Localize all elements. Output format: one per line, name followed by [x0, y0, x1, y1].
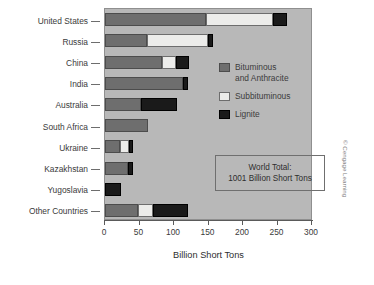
- x-tick: [208, 221, 209, 225]
- x-axis-label: Billion Short Tons: [104, 250, 313, 260]
- x-tick: [242, 221, 243, 225]
- category-label: India: [0, 79, 88, 89]
- world-total-line1: World Total:: [249, 162, 292, 173]
- category-tick: [91, 84, 100, 85]
- segment-lignite: [153, 204, 188, 217]
- x-tick-label: 250: [270, 227, 284, 237]
- bar-other-countries: [105, 204, 188, 217]
- category-label: United States: [0, 16, 88, 26]
- bar-russia: [105, 34, 213, 47]
- category-label: Yugoslavia: [0, 185, 88, 195]
- bituminous-swatch: [219, 63, 230, 72]
- category-tick: [91, 42, 100, 43]
- segment-bituminous: [105, 56, 162, 69]
- bar-yugoslavia: [105, 183, 121, 196]
- copyright-credit: © Cengage Learning: [342, 140, 349, 197]
- bar-china: [105, 56, 189, 69]
- segment-bituminous: [105, 140, 120, 153]
- legend-item-subbituminous: Subbituminous: [219, 91, 337, 102]
- category-label: Australia: [0, 100, 88, 110]
- category-label: China: [0, 58, 88, 68]
- segment-bituminous: [105, 98, 141, 111]
- x-tick: [104, 221, 105, 225]
- x-tick: [311, 221, 312, 225]
- category-label: Ukraine: [0, 143, 88, 153]
- category-axis: United StatesRussiaChinaIndiaAustraliaSo…: [0, 10, 88, 218]
- category-tick: [91, 127, 100, 128]
- segment-bituminous: [105, 162, 128, 175]
- category-label: South Africa: [0, 122, 88, 132]
- world-total-box: World Total: 1001 Billion Short Tons: [215, 155, 325, 191]
- x-tick-label: 50: [134, 227, 143, 237]
- segment-lignite: [176, 56, 189, 69]
- category-tick: [91, 211, 100, 212]
- category-label: Kazakhstan: [0, 164, 88, 174]
- x-tick-label: 200: [235, 227, 249, 237]
- legend-label-bituminous: Bituminous and Anthracite: [235, 62, 289, 83]
- legend-item-bituminous: Bituminous and Anthracite: [219, 62, 337, 83]
- segment-subbituminous: [120, 140, 129, 153]
- bar-ukraine: [105, 140, 133, 153]
- x-tick: [173, 221, 174, 225]
- category-label: Russia: [0, 37, 88, 47]
- segment-subbituminous: [138, 204, 152, 217]
- bar-india: [105, 77, 188, 90]
- category-tick: [91, 169, 100, 170]
- segment-bituminous: [105, 204, 138, 217]
- segment-subbituminous: [147, 34, 208, 47]
- segment-lignite: [129, 140, 133, 153]
- world-total-line2: 1001 Billion Short Tons: [228, 173, 312, 184]
- x-tick-label: 0: [102, 227, 107, 237]
- segment-bituminous: [105, 77, 183, 90]
- segment-lignite: [105, 183, 121, 196]
- x-axis-line: [104, 220, 313, 221]
- category-tick: [91, 148, 100, 149]
- bar-kazakhstan: [105, 162, 133, 175]
- legend-item-lignite: Lignite: [219, 109, 337, 120]
- category-label: Other Countries: [0, 206, 88, 216]
- category-tick: [91, 63, 100, 64]
- segment-bituminous: [105, 119, 148, 132]
- category-tick: [91, 190, 100, 191]
- category-tick: [91, 21, 100, 22]
- segment-subbituminous: [162, 56, 176, 69]
- subbituminous-swatch: [219, 92, 230, 101]
- x-tick-label: 100: [166, 227, 180, 237]
- segment-lignite: [273, 13, 287, 26]
- legend-label-subbituminous: Subbituminous: [235, 91, 290, 102]
- segment-lignite: [208, 34, 214, 47]
- legend-label-lignite: Lignite: [235, 109, 260, 120]
- bar-south-africa: [105, 119, 148, 132]
- segment-bituminous: [105, 34, 147, 47]
- x-tick-label: 300: [304, 227, 318, 237]
- segment-lignite: [141, 98, 177, 111]
- category-tick: [91, 105, 100, 106]
- segment-lignite: [128, 162, 132, 175]
- x-tick: [277, 221, 278, 225]
- x-tick: [139, 221, 140, 225]
- lignite-swatch: [219, 110, 230, 119]
- coal-reserves-chart: United StatesRussiaChinaIndiaAustraliaSo…: [0, 0, 374, 285]
- chart-legend: Bituminous and Anthracite Subbituminous …: [219, 62, 337, 121]
- segment-lignite: [183, 77, 188, 90]
- segment-subbituminous: [206, 13, 274, 26]
- x-tick-label: 150: [201, 227, 215, 237]
- bar-australia: [105, 98, 177, 111]
- bar-united-states: [105, 13, 287, 26]
- segment-bituminous: [105, 13, 206, 26]
